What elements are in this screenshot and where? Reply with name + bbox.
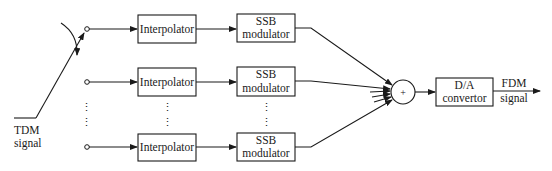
svg-text:SSB: SSB xyxy=(256,15,277,27)
channel-row-3: Interpolator SSB modulator xyxy=(85,100,392,161)
convertor-label: convertor xyxy=(442,92,486,104)
terminal-2 xyxy=(85,80,90,85)
ellipsis-terminal-2: ⋮ xyxy=(81,116,92,128)
fdm-label-signal: signal xyxy=(500,92,527,105)
implied-input-1 xyxy=(370,91,390,92)
ellipsis-interp-2: ⋮ xyxy=(162,116,173,128)
ellipsis-ssb-2: ⋮ xyxy=(261,116,272,128)
summing-junction: + xyxy=(391,80,415,104)
da-label: D/A xyxy=(455,79,476,91)
commutator-switch xyxy=(14,23,84,118)
tdm-to-fdm-block-diagram: TDM signal Interpolator SSB modulator In… xyxy=(0,0,552,171)
interpolator-label-3: Interpolator xyxy=(140,141,194,154)
terminal-1 xyxy=(85,27,90,32)
fdm-label: FDM xyxy=(502,77,527,89)
svg-text:modulator: modulator xyxy=(242,147,289,159)
interpolator-label-1: Interpolator xyxy=(140,23,194,36)
ellipsis-ssb-1: ⋮ xyxy=(261,101,272,113)
plus-icon: + xyxy=(400,87,406,98)
terminal-3 xyxy=(85,145,90,150)
svg-text:modulator: modulator xyxy=(242,82,289,94)
svg-text:modulator: modulator xyxy=(242,28,289,40)
interpolator-label-2: Interpolator xyxy=(140,76,194,89)
channel-row-2: Interpolator SSB modulator xyxy=(85,67,390,96)
ellipsis-interp-1: ⋮ xyxy=(162,101,173,113)
ellipsis-terminal-1: ⋮ xyxy=(81,101,92,113)
svg-text:SSB: SSB xyxy=(256,134,277,146)
tdm-label: TDM xyxy=(14,124,40,136)
implied-input-2 xyxy=(372,94,390,97)
implied-input-3 xyxy=(374,97,391,102)
tdm-label-signal: signal xyxy=(14,137,41,150)
svg-text:SSB: SSB xyxy=(256,68,277,80)
